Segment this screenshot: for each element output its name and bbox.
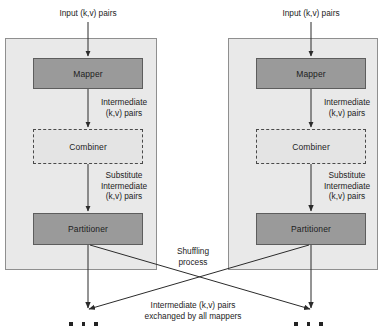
diagram-canvas: Input (k,v) pairs Mapper Intermediate (k… (0, 0, 385, 335)
connector-layer (0, 0, 385, 335)
